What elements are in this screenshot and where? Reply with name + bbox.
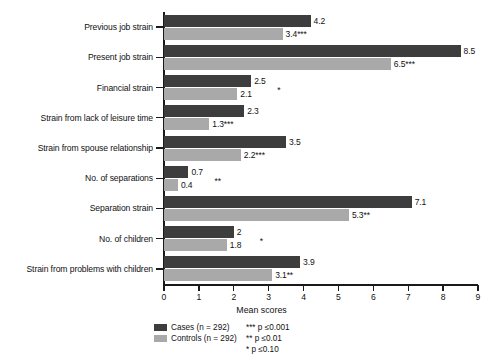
category-label: Separation strain — [90, 203, 153, 213]
x-tick-label: 4 — [301, 292, 306, 302]
x-tick — [442, 285, 443, 291]
x-tick-label: 6 — [371, 292, 376, 302]
x-tick — [163, 285, 164, 291]
legend: Cases (n = 292)Controls (n = 292) — [154, 322, 237, 344]
significance-marker: * — [277, 85, 280, 95]
y-tick — [156, 87, 163, 88]
bar-group: 2.52.1* — [164, 75, 478, 100]
bar-cases — [164, 226, 234, 238]
y-tick — [156, 147, 163, 148]
bar-controls — [164, 88, 237, 100]
legend-label: Controls (n = 292) — [171, 333, 237, 344]
bar-value-cases: 0.7 — [191, 166, 203, 178]
y-tick — [156, 26, 163, 27]
legend-item: Controls (n = 292) — [154, 333, 237, 344]
x-tick-label: 2 — [231, 292, 236, 302]
bar-value-cases: 2 — [237, 226, 242, 238]
significance-note: * p ≤0.10 — [246, 344, 290, 355]
plot-area: 4.23.4***8.56.5***2.52.1*2.31.3***3.52.2… — [164, 12, 478, 284]
significance-marker: * — [260, 236, 263, 246]
bar-cases — [164, 196, 412, 208]
x-tick-label: 0 — [162, 292, 167, 302]
category-label: Previous job strain — [84, 22, 153, 32]
bar-cases — [164, 105, 244, 117]
bar-group: 3.93.1** — [164, 256, 478, 281]
category-label: Strain from problems with children — [26, 264, 153, 274]
bar-value-controls: 1.8 — [230, 239, 242, 251]
y-tick — [156, 238, 163, 239]
x-tick — [198, 285, 199, 291]
bar-controls — [164, 118, 209, 130]
y-tick — [156, 57, 163, 58]
x-tick-label: 7 — [406, 292, 411, 302]
bar-value-controls: 3.4*** — [286, 28, 307, 40]
bar-group: 3.52.2*** — [164, 136, 478, 161]
bar-value-cases: 2.3 — [247, 105, 259, 117]
bar-cases — [164, 166, 188, 178]
bar-value-controls: 2.2*** — [244, 149, 265, 161]
x-tick-label: 8 — [441, 292, 446, 302]
y-tick — [156, 117, 163, 118]
bar-value-cases: 7.1 — [415, 196, 427, 208]
significance-notes: *** p ≤0.001** p ≤0.01* p ≤0.10 — [246, 322, 290, 355]
significance-note: ** p ≤0.01 — [246, 333, 290, 344]
bar-value-cases: 8.5 — [464, 45, 476, 57]
category-label: Present job strain — [88, 52, 153, 62]
bar-cases — [164, 256, 300, 268]
x-axis-title: Mean scores — [0, 305, 499, 315]
x-tick — [268, 285, 269, 291]
category-label: No. of children — [99, 234, 153, 244]
bar-value-cases: 4.2 — [314, 15, 326, 27]
category-label: No. of separations — [85, 173, 153, 183]
bar-controls — [164, 209, 349, 221]
bar-cases — [164, 75, 251, 87]
bar-value-cases: 3.5 — [289, 136, 301, 148]
bar-controls — [164, 269, 272, 281]
bar-group: 21.8* — [164, 226, 478, 251]
legend-item: Cases (n = 292) — [154, 322, 237, 333]
bar-controls — [164, 179, 178, 191]
bar-group: 0.70.4** — [164, 166, 478, 191]
bar-cases — [164, 136, 286, 148]
bar-value-controls: 0.4 — [181, 179, 193, 191]
x-tick-label: 5 — [336, 292, 341, 302]
x-tick — [373, 285, 374, 291]
bar-value-cases: 2.5 — [254, 75, 266, 87]
bar-value-controls: 3.1** — [275, 269, 293, 281]
x-axis-line — [163, 284, 478, 286]
y-tick — [156, 268, 163, 269]
x-tick — [303, 285, 304, 291]
y-tick — [156, 208, 163, 209]
legend-label: Cases (n = 292) — [171, 322, 229, 333]
x-tick — [233, 285, 234, 291]
significance-marker: ** — [214, 176, 221, 186]
bar-controls — [164, 149, 241, 161]
x-tick — [408, 285, 409, 291]
legend-swatch-cases — [154, 324, 167, 331]
bar-controls — [164, 239, 227, 251]
bar-group: 2.31.3*** — [164, 105, 478, 130]
x-tick — [338, 285, 339, 291]
y-tick — [156, 178, 163, 179]
x-tick-label: 3 — [266, 292, 271, 302]
bar-value-controls: 2.1 — [240, 88, 252, 100]
legend-swatch-controls — [154, 335, 167, 342]
bar-cases — [164, 45, 461, 57]
bar-value-controls: 1.3*** — [212, 118, 233, 130]
x-tick-label: 9 — [476, 292, 481, 302]
bar-cases — [164, 15, 311, 27]
category-label: Financial strain — [97, 83, 153, 93]
bar-group: 8.56.5*** — [164, 45, 478, 70]
bar-chart: 4.23.4***8.56.5***2.52.1*2.31.3***3.52.2… — [0, 0, 499, 364]
x-tick-label: 1 — [196, 292, 201, 302]
bar-group: 7.15.3** — [164, 196, 478, 221]
x-axis-title-text: Mean scores — [236, 305, 286, 315]
bar-value-controls: 6.5*** — [394, 58, 415, 70]
bar-value-controls: 5.3** — [352, 209, 370, 221]
category-label: Strain from lack of leisure time — [41, 113, 153, 123]
bar-controls — [164, 28, 283, 40]
bar-value-cases: 3.9 — [303, 256, 315, 268]
significance-note: *** p ≤0.001 — [246, 322, 290, 333]
x-tick — [477, 285, 478, 291]
bar-group: 4.23.4*** — [164, 15, 478, 40]
